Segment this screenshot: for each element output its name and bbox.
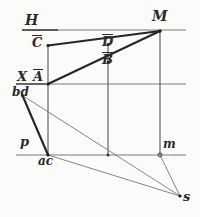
label-s-point: s	[183, 190, 190, 203]
label-m-lower: m	[163, 138, 176, 150]
node-point-s	[178, 194, 181, 197]
label-d-bar: D	[102, 34, 113, 48]
paper-background	[0, 0, 200, 217]
node-point-A	[46, 82, 49, 85]
drawing-canvas: H M C D B X A bd p ac m s	[0, 0, 200, 217]
node-point-C	[47, 44, 50, 47]
label-a-bar: A	[33, 69, 43, 83]
node-point-M	[158, 29, 161, 32]
label-x-axis: X	[17, 70, 27, 83]
label-m-point: M	[152, 9, 168, 23]
label-p-point: p	[20, 135, 29, 148]
label-bd-trace: bd	[12, 86, 29, 98]
label-c-bar: C	[32, 35, 42, 49]
node-point-crossing	[107, 154, 110, 157]
label-b-bar: B	[102, 52, 113, 66]
label-h-plane: H	[25, 13, 38, 27]
label-ac-trace: ac	[38, 155, 53, 167]
geometry-sketch	[0, 0, 200, 217]
